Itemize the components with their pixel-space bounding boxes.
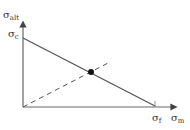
sigma-c-label: σc — [8, 28, 19, 41]
x-axis-label: σm — [171, 112, 185, 125]
y-axis-label: σalt — [3, 9, 19, 22]
load-line — [23, 62, 110, 107]
intersection-point — [88, 69, 94, 75]
sigma-f-label: σf — [152, 112, 163, 125]
stress-diagram: σalt σc σf σm — [0, 0, 190, 130]
